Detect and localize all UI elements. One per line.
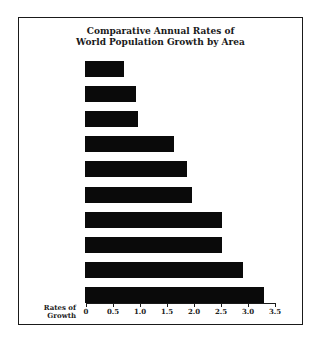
bar <box>85 212 222 228</box>
x-tick-label: 1.0 <box>130 307 150 316</box>
x-tick-label: 0.5 <box>103 307 123 316</box>
bar <box>85 237 222 253</box>
x-tick-label: 3.0 <box>238 307 258 316</box>
axis-label-line-2: Growth <box>36 312 76 320</box>
bar <box>85 262 243 278</box>
bar <box>85 287 264 303</box>
x-tick-label: 2.5 <box>211 307 231 316</box>
bar <box>85 161 187 177</box>
bar <box>85 86 136 102</box>
bar <box>85 61 124 77</box>
chart-title-line-2: World Population Growth by Area <box>0 37 321 48</box>
x-tick-label: 3.5 <box>265 307 285 316</box>
x-tick-label: 1.5 <box>157 307 177 316</box>
bar <box>85 111 138 127</box>
x-tick-label: 2.0 <box>184 307 204 316</box>
x-tick-label: 0 <box>76 307 96 316</box>
x-axis-line <box>86 303 275 304</box>
chart-title-line-1: Comparative Annual Rates of <box>0 26 321 37</box>
axis-label: Rates of Growth <box>36 304 76 320</box>
chart-title: Comparative Annual Rates of World Popula… <box>0 26 321 48</box>
bar <box>85 136 174 152</box>
bar <box>85 187 192 203</box>
